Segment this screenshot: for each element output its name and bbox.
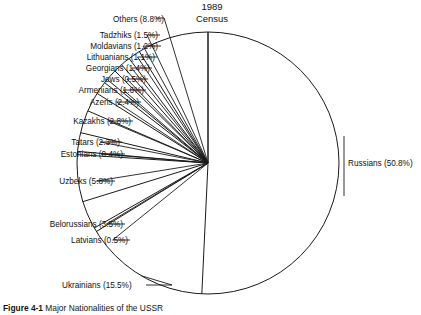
slice-label-lithuanians: Lithuanians (1.1%) <box>40 53 155 63</box>
figure-caption: Figure 4-1 Major Nationalities of the US… <box>3 303 303 313</box>
slice-label-jews: Jews (0.5%) <box>40 75 146 85</box>
slice-label-russians: Russians (50.8%) <box>348 159 413 169</box>
figure-caption-number: Figure 4-1 <box>3 303 43 313</box>
leader-line <box>106 163 208 224</box>
slice-label-georgians: Georgians (1.4%) <box>40 64 150 74</box>
slice-label-others: Others (8.8%) <box>113 15 164 25</box>
leader-line <box>108 121 208 163</box>
slice-label-belorussians: Belorussians (3.5%) <box>0 220 123 230</box>
slice-label-uzbeks: Uzbeks (5.8%) <box>8 177 113 187</box>
slice-label-estonians: Estonians (0.4%) <box>0 150 123 160</box>
slice-label-moldavians: Moldavians (1.2%) <box>48 42 158 52</box>
leader-line <box>143 46 208 163</box>
chart-title: 1989Census <box>172 1 252 24</box>
slice-label-kazakhs: Kazakhs (2.8%) <box>12 117 131 127</box>
chart-title-census: Census <box>196 13 228 24</box>
figure-container: 1989Census Others (8.8%) Tadzhiks (1.5%)… <box>0 0 421 315</box>
slice-label-azeris: Azeris (2.4%) <box>22 98 139 108</box>
slice-label-armenians: Armenians (1.6%) <box>22 86 144 96</box>
slice-label-tadzhiks: Tadzhiks (1.5%) <box>58 31 158 41</box>
leader-line <box>113 163 208 240</box>
slice-label-ukrainians: Ukrainians (15.5%) <box>62 281 132 291</box>
slice-boundary-line <box>202 163 208 294</box>
chart-title-year: 1989 <box>201 1 222 12</box>
figure-caption-text: Major Nationalities of the USSR <box>45 303 163 313</box>
slice-label-latvians: Latvians (0.5%) <box>10 236 128 246</box>
slice-label-tatars: Tatars (2.3%) <box>8 138 120 148</box>
